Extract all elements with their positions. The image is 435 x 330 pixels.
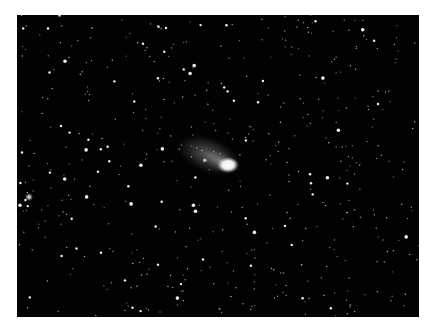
star: [186, 41, 187, 42]
star: [171, 47, 172, 48]
star: [72, 268, 73, 269]
star: [60, 255, 62, 257]
star: [205, 121, 206, 122]
star: [394, 44, 395, 45]
star: [277, 296, 278, 297]
star: [177, 304, 178, 305]
star: [242, 303, 243, 304]
star: [253, 231, 257, 235]
star: [87, 86, 88, 87]
star: [268, 133, 269, 134]
star: [91, 28, 92, 29]
star: [139, 310, 141, 312]
star: [361, 28, 365, 32]
star: [70, 199, 71, 200]
star: [189, 228, 190, 229]
star: [254, 281, 255, 282]
star: [254, 257, 255, 258]
star: [340, 161, 341, 162]
star: [154, 61, 155, 62]
star: [70, 274, 71, 275]
star: [160, 201, 162, 203]
star: [387, 251, 388, 252]
star: [142, 43, 144, 45]
star: [311, 33, 312, 34]
star: [261, 19, 262, 20]
star: [34, 153, 35, 154]
star: [53, 69, 54, 70]
star: [222, 229, 223, 230]
star: [48, 55, 49, 56]
star: [71, 45, 72, 46]
star: [157, 132, 158, 133]
star: [19, 182, 21, 184]
star: [170, 275, 171, 276]
star: [347, 290, 348, 291]
star: [362, 20, 363, 21]
star: [310, 15, 311, 16]
star: [146, 47, 147, 48]
star: [286, 212, 287, 213]
star: [121, 19, 122, 20]
star: [246, 253, 247, 254]
star: [280, 272, 281, 273]
star: [161, 28, 162, 29]
star: [173, 44, 174, 45]
star: [101, 138, 102, 139]
star: [87, 139, 89, 141]
star: [66, 147, 67, 148]
star: [347, 212, 348, 213]
star: [22, 46, 23, 47]
star: [132, 93, 133, 94]
star: [352, 157, 353, 158]
star: [188, 72, 192, 76]
star: [85, 93, 86, 94]
star: [145, 118, 146, 119]
star: [213, 123, 214, 124]
star: [59, 215, 60, 216]
star: [334, 59, 335, 60]
star: [332, 31, 333, 32]
star: [342, 218, 343, 219]
star: [347, 313, 348, 314]
star: [266, 159, 267, 160]
star: [221, 251, 222, 252]
star: [93, 204, 94, 205]
star-field: [17, 15, 419, 317]
star: [21, 111, 22, 112]
star: [336, 57, 337, 58]
star: [269, 194, 270, 195]
star: [159, 128, 160, 129]
comet-nucleus: [217, 157, 239, 173]
star: [136, 249, 137, 250]
star: [336, 256, 337, 257]
star: [175, 231, 176, 232]
star: [87, 91, 88, 92]
star: [310, 189, 311, 190]
star: [243, 57, 244, 58]
star: [129, 202, 133, 206]
star: [333, 249, 334, 250]
star: [246, 224, 247, 225]
star: [254, 305, 255, 306]
star: [103, 285, 104, 286]
star: [267, 242, 268, 243]
star: [91, 60, 92, 61]
star: [288, 174, 289, 175]
star: [131, 233, 132, 234]
star: [128, 306, 129, 307]
star: [194, 176, 196, 178]
star: [107, 289, 108, 290]
star: [321, 277, 322, 278]
star: [115, 119, 116, 120]
star: [284, 16, 285, 17]
star: [63, 60, 67, 64]
star: [325, 137, 326, 138]
star: [251, 249, 252, 250]
star: [377, 48, 378, 49]
star: [107, 67, 108, 68]
star: [275, 145, 276, 146]
star: [323, 295, 324, 296]
star: [79, 133, 80, 134]
star: [139, 262, 140, 263]
